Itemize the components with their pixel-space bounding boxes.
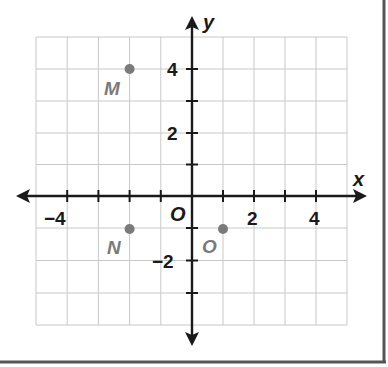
x-tick-label-neg4: −4 xyxy=(44,208,66,229)
y-axis xyxy=(185,16,199,346)
point-N: N xyxy=(107,224,135,258)
point-marker xyxy=(218,224,228,234)
x-tick-label-4: 4 xyxy=(309,208,320,229)
point-label: N xyxy=(107,237,122,258)
point-marker xyxy=(125,224,135,234)
point-label: O xyxy=(202,236,217,257)
point-O: O xyxy=(202,224,228,257)
point-marker xyxy=(125,64,135,74)
origin-label: O xyxy=(170,203,186,225)
coordinate-plane: −4 2 4 4 2 −2 y x O M N O xyxy=(0,0,388,367)
y-tick-label-2: 2 xyxy=(167,123,178,144)
x-axis-label: x xyxy=(352,168,365,190)
x-tick-label-2: 2 xyxy=(247,208,258,229)
y-tick-label-4: 4 xyxy=(167,59,178,80)
point-label: M xyxy=(104,78,121,99)
y-tick-label-neg2: −2 xyxy=(152,251,174,272)
y-axis-label: y xyxy=(202,11,215,33)
